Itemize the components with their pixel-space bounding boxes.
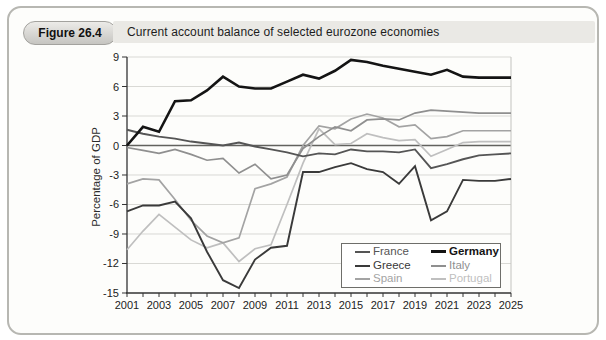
legend-swatch-italy bbox=[431, 265, 446, 267]
y-tick-label: -15 bbox=[103, 287, 119, 299]
x-tick-label: 2019 bbox=[403, 299, 427, 311]
legend-swatch-spain bbox=[355, 278, 370, 280]
legend-swatch-greece bbox=[355, 265, 370, 267]
series-line-germany bbox=[127, 60, 511, 146]
x-tick-label: 2009 bbox=[243, 299, 267, 311]
y-tick-label: 9 bbox=[113, 51, 119, 63]
x-tick-label: 2021 bbox=[435, 299, 459, 311]
legend-label-italy: Italy bbox=[449, 260, 470, 272]
legend-label-greece: Greece bbox=[373, 260, 411, 272]
legend-label-france: France bbox=[373, 246, 409, 258]
y-tick-label: -3 bbox=[109, 169, 119, 181]
legend-swatch-germany bbox=[431, 250, 446, 253]
series-line-italy bbox=[127, 110, 511, 179]
legend: FranceGermanyGreeceItalySpainPortugal bbox=[341, 243, 501, 288]
legend-item-germany: Germany bbox=[431, 246, 500, 258]
series-line-spain bbox=[127, 114, 511, 243]
chart-region: 9630-3-6-9-12-15200120032005200720092011… bbox=[0, 36, 606, 336]
x-tick-label: 2005 bbox=[179, 299, 203, 311]
y-tick-label: -9 bbox=[109, 228, 119, 240]
legend-label-portugal: Portugal bbox=[449, 273, 492, 285]
legend-swatch-portugal bbox=[431, 278, 446, 280]
y-tick-label: -6 bbox=[109, 198, 119, 210]
legend-item-spain: Spain bbox=[355, 273, 431, 285]
legend-item-france: France bbox=[355, 246, 431, 258]
series-line-france bbox=[127, 130, 511, 168]
x-tick-label: 2007 bbox=[211, 299, 235, 311]
x-tick-label: 2023 bbox=[467, 299, 491, 311]
y-tick-label: 6 bbox=[113, 81, 119, 93]
legend-swatch-france bbox=[355, 251, 370, 253]
y-tick-label: -12 bbox=[103, 257, 119, 269]
x-tick-label: 2015 bbox=[339, 299, 363, 311]
x-tick-label: 2017 bbox=[371, 299, 395, 311]
legend-label-spain: Spain bbox=[373, 273, 402, 285]
x-tick-label: 2025 bbox=[499, 299, 523, 311]
x-tick-label: 2011 bbox=[275, 299, 299, 311]
x-tick-label: 2003 bbox=[147, 299, 171, 311]
legend-item-greece: Greece bbox=[355, 260, 431, 272]
x-tick-label: 2001 bbox=[115, 299, 139, 311]
legend-item-italy: Italy bbox=[431, 260, 500, 272]
legend-item-portugal: Portugal bbox=[431, 273, 500, 285]
series-line-portugal bbox=[127, 129, 511, 262]
x-tick-label: 2013 bbox=[307, 299, 331, 311]
y-tick-label: 3 bbox=[113, 110, 119, 122]
legend-label-germany: Germany bbox=[449, 246, 499, 258]
y-tick-label: 0 bbox=[113, 140, 119, 152]
